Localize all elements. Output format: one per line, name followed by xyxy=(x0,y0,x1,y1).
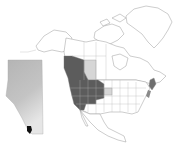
range-light-dakota xyxy=(104,88,112,95)
arctic-island xyxy=(112,14,126,22)
north-america-map xyxy=(0,0,181,150)
aleutians xyxy=(20,50,36,52)
alberta-inset xyxy=(6,60,43,134)
greenland xyxy=(126,6,172,48)
alberta-shape xyxy=(6,60,43,134)
